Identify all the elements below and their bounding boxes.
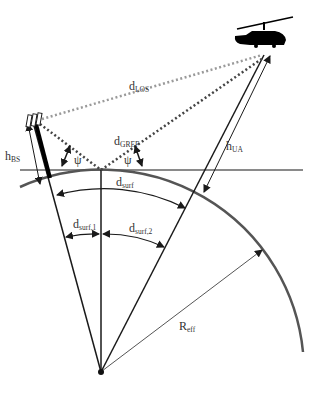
d-surf-label: dsurf — [116, 176, 134, 190]
h-ua-arrow — [204, 56, 270, 192]
r-eff-label: Reff — [179, 320, 195, 334]
los-path — [42, 55, 262, 119]
d-gref-label: dGREF — [114, 135, 139, 149]
psi-right-label: ψ — [124, 154, 132, 166]
base-station-antenna-icon — [26, 113, 42, 128]
r-eff-arrow — [102, 250, 262, 371]
psi-right-arrow — [135, 146, 142, 166]
d-los-label: dLOS — [129, 80, 149, 94]
d-surf-arrow — [57, 189, 185, 208]
d-surf-1-arrow — [66, 234, 99, 237]
d-surf-2-arrow — [103, 234, 164, 247]
psi-left-label: ψ — [74, 154, 82, 166]
propagation-diagram: dLOS dGREF hBS hUA ψ ψ dsurf dsurf,1 dsu… — [0, 0, 317, 394]
helicopter-icon — [235, 17, 293, 48]
earth-center-dot-icon — [98, 369, 104, 375]
earth-surface-arc — [20, 170, 303, 352]
h-bs-label: hBS — [5, 150, 20, 164]
d-surf-1-label: dsurf,1 — [73, 218, 96, 232]
psi-left-arrow — [62, 146, 70, 166]
h-ua-label: hUA — [226, 140, 243, 154]
d-surf-2-label: dsurf,2 — [129, 222, 152, 236]
